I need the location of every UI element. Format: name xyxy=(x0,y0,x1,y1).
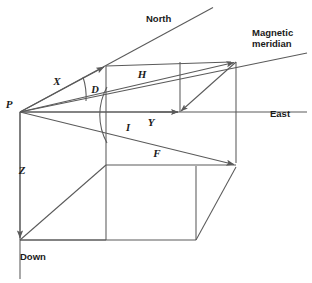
inclination-angle-label: I xyxy=(125,122,131,133)
y-component-label: Y xyxy=(148,116,156,128)
x-component-label: X xyxy=(52,75,61,87)
east-axis-label: East xyxy=(270,108,291,119)
north-axis-label: North xyxy=(146,13,172,24)
magnetic-meridian-line xyxy=(20,53,307,112)
origin-point-label: P xyxy=(6,98,13,110)
box-back-bottom-right-diagonal xyxy=(196,167,236,240)
h-component-label: H xyxy=(137,68,147,80)
magnetic-meridian-label-line2: meridian xyxy=(252,38,292,49)
f-total-field-label: F xyxy=(152,147,161,159)
diagram-canvas: North East Down Magnetic meridian X H Y … xyxy=(0,0,312,283)
down-axis-label: Down xyxy=(20,251,46,262)
box-left-floor-diagonal xyxy=(20,165,106,240)
f-total-field-vector xyxy=(20,112,234,165)
magnetic-meridian-label-line1: Magnetic xyxy=(252,27,293,38)
z-component-label: Z xyxy=(18,164,26,176)
box-top-front-edge xyxy=(106,62,231,66)
geomagnetic-field-diagram: North East Down Magnetic meridian X H Y … xyxy=(0,0,312,283)
declination-angle-label: D xyxy=(90,84,99,95)
meridian-corner-diagonal xyxy=(181,62,236,111)
h-component-vector xyxy=(20,63,234,113)
